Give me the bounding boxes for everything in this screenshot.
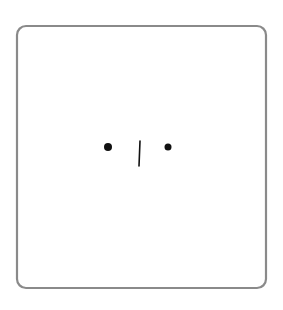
sketch-canvas — [0, 0, 283, 310]
left-dot — [104, 143, 112, 151]
right-dot — [165, 144, 172, 151]
vertical-line-mark — [139, 141, 140, 166]
rounded-square-frame — [17, 26, 266, 288]
